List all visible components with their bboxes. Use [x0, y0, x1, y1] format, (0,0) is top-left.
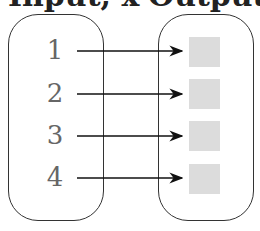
mapping-arrows — [0, 0, 260, 231]
